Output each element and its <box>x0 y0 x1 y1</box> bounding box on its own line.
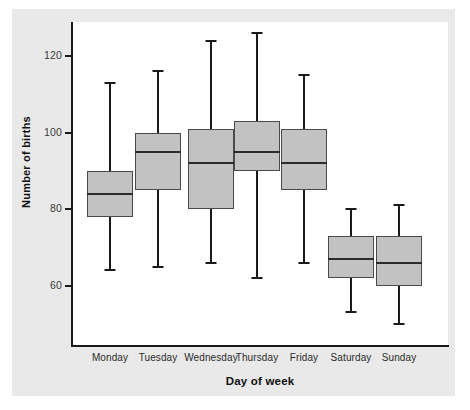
upper-whisker-cap <box>206 40 217 42</box>
lower-whisker <box>350 278 352 312</box>
x-tick-label-wednesday: Wednesday <box>184 352 238 363</box>
upper-whisker-cap <box>252 32 263 34</box>
lower-whisker <box>256 171 258 278</box>
y-axis-title: Number of births <box>20 92 32 232</box>
iqr-box <box>135 133 181 190</box>
lower-whisker-cap <box>252 277 263 279</box>
median-line <box>234 151 280 153</box>
upper-whisker <box>109 83 111 171</box>
y-tick-label: 120 <box>20 49 62 61</box>
upper-whisker <box>157 71 159 132</box>
lower-whisker-cap <box>105 269 116 271</box>
x-axis-title: Day of week <box>72 375 448 387</box>
x-tick-label-monday: Monday <box>92 352 128 363</box>
x-tick-label-tuesday: Tuesday <box>139 352 178 363</box>
upper-whisker-cap <box>394 204 405 206</box>
x-tick-label-sunday: Sunday <box>382 352 417 363</box>
median-line <box>87 193 133 195</box>
iqr-box <box>188 129 234 209</box>
upper-whisker-cap <box>346 208 357 210</box>
upper-whisker-cap <box>105 82 116 84</box>
box-plot-figure: 6080100120 MondayTuesdayWednesdayThursda… <box>0 0 470 410</box>
lower-whisker <box>398 286 400 324</box>
x-tick-label-friday: Friday <box>290 352 318 363</box>
lower-whisker <box>157 190 159 267</box>
lower-whisker <box>109 217 111 271</box>
upper-whisker-cap <box>299 74 310 76</box>
x-tick-label-thursday: Thursday <box>236 352 279 363</box>
lower-whisker <box>210 209 212 263</box>
lower-whisker-cap <box>346 311 357 313</box>
y-axis-spine <box>71 22 73 346</box>
lower-whisker <box>303 190 305 263</box>
median-line <box>188 162 234 164</box>
y-tick-label-wrap: 120 <box>18 49 62 63</box>
y-tick-mark <box>65 208 72 210</box>
upper-whisker <box>256 33 258 121</box>
y-tick-mark <box>65 132 72 134</box>
lower-whisker-cap <box>394 323 405 325</box>
y-tick-mark <box>65 285 72 287</box>
lower-whisker-cap <box>299 262 310 264</box>
median-line <box>281 162 327 164</box>
lower-whisker-cap <box>153 266 164 268</box>
median-line <box>135 151 181 153</box>
iqr-box <box>281 129 327 190</box>
x-axis-spine <box>71 345 449 347</box>
upper-whisker <box>210 41 212 129</box>
y-tick-label-wrap: 60 <box>18 279 62 293</box>
median-line <box>328 258 374 260</box>
y-tick-label: 60 <box>20 279 62 291</box>
y-tick-mark <box>65 55 72 57</box>
median-line <box>376 262 422 264</box>
upper-whisker-cap <box>153 70 164 72</box>
iqr-box <box>234 121 280 171</box>
upper-whisker <box>398 205 400 236</box>
upper-whisker <box>303 75 305 129</box>
lower-whisker-cap <box>206 262 217 264</box>
x-tick-label-saturday: Saturday <box>331 352 372 363</box>
upper-whisker <box>350 209 352 236</box>
